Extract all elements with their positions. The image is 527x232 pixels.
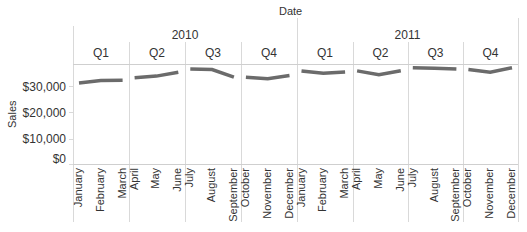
month-label: May <box>372 168 384 232</box>
month-label: October <box>239 168 251 232</box>
month-label: June <box>394 168 406 232</box>
quarter-line-segment <box>246 76 290 79</box>
month-label: May <box>149 168 161 232</box>
quarter-line-segment <box>357 71 401 75</box>
month-label: November <box>261 168 273 232</box>
quarter-line-segment <box>79 80 123 83</box>
month-label: July <box>183 168 195 232</box>
month-label: February <box>94 168 106 232</box>
month-label: September <box>449 168 461 232</box>
month-label: April <box>350 168 362 232</box>
month-label: August <box>205 168 217 232</box>
quarter-line-segment <box>413 68 457 69</box>
month-label: June <box>171 168 183 232</box>
month-label: March <box>338 168 350 232</box>
month-label: December <box>283 168 295 232</box>
month-label: November <box>483 168 495 232</box>
sales-line <box>79 68 512 83</box>
quarter-line-segment <box>468 68 512 72</box>
quarter-line-segment <box>302 71 346 73</box>
month-label: October <box>461 168 473 232</box>
month-label: August <box>428 168 440 232</box>
quarter-line-segment <box>190 69 234 77</box>
month-label: January <box>72 168 84 232</box>
month-label: March <box>116 168 128 232</box>
month-label: January <box>295 168 307 232</box>
month-label: February <box>316 168 328 232</box>
quarter-line-segment <box>135 72 179 78</box>
month-label: September <box>227 168 239 232</box>
month-label: December <box>505 168 517 232</box>
month-label: April <box>128 168 140 232</box>
month-label: July <box>406 168 418 232</box>
